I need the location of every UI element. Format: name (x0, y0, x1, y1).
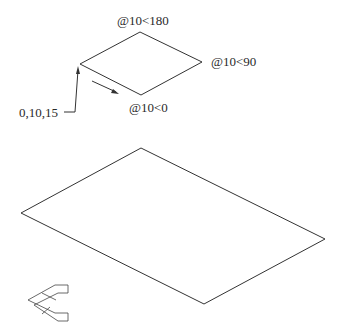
large-rhombus (21, 148, 325, 304)
small-rhombus (80, 32, 202, 95)
label-bottom: @10<0 (129, 101, 168, 114)
origin-leader-line (64, 70, 78, 112)
origin-arrowhead-icon (76, 66, 80, 74)
label-right: @10<90 (211, 55, 256, 68)
ucs-icon (28, 285, 68, 321)
drawing-canvas (0, 0, 341, 331)
label-top: @10<180 (117, 14, 169, 27)
label-origin: 0,10,15 (19, 106, 58, 119)
